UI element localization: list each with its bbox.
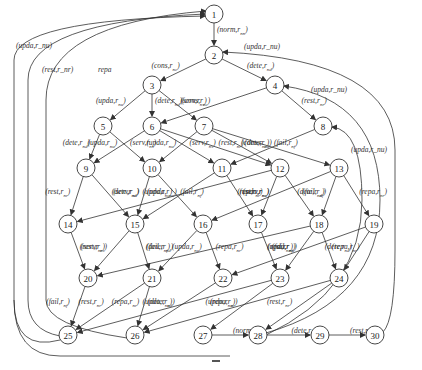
- edge-labels: (norm,rnn)(cons,rnc)(dete,rnd)(upda,rnu)…: [45, 25, 387, 337]
- edge-label-9-14: (rest,rnr): [45, 187, 71, 198]
- edge-label-7-10: (upda,rnu): [146, 138, 176, 149]
- edge-13-16: [212, 171, 330, 220]
- svg-text:11: 11: [218, 164, 227, 174]
- svg-text:16: 16: [199, 220, 209, 230]
- state-node-19: 19: [365, 215, 383, 233]
- edge-label-13-18: (dete,rnd): [297, 187, 325, 198]
- edge-label-6-11: (serv,rns): [190, 138, 217, 149]
- svg-text:15: 15: [131, 220, 141, 230]
- svg-text:10: 10: [148, 164, 158, 174]
- state-node-27: 27: [194, 326, 212, 344]
- state-node-22: 22: [214, 269, 232, 287]
- svg-text:13: 13: [335, 164, 345, 174]
- edge-label-20-25: (fail,rnf): [46, 297, 70, 308]
- edge-label-2-3: (cons,rnc): [151, 61, 180, 72]
- svg-text:18: 18: [315, 220, 325, 230]
- state-transition-diagram: (norm,rnn)(cons,rnc)(dete,rnd)(upda,rnu)…: [0, 0, 422, 370]
- edge-label-1-2: (norm,rnn): [217, 25, 248, 36]
- edge-label-4-8: (rest,rnr): [302, 96, 328, 107]
- state-node-13: 13: [330, 159, 348, 177]
- state-node-7: 7: [195, 117, 213, 135]
- state-node-8: 8: [314, 117, 332, 135]
- edge-label-16-22: (repa,rnr): [216, 242, 244, 253]
- edge-label-13-16: (upda,rnu): [239, 187, 269, 198]
- state-node-28: 28: [249, 326, 267, 344]
- svg-text:28: 28: [254, 331, 264, 341]
- edge-label-30-2-upda: (upda,r_nu): [244, 42, 281, 51]
- edge-9-14: [71, 177, 83, 215]
- edge-6-12: [161, 129, 271, 165]
- svg-text:23: 23: [276, 274, 286, 284]
- svg-text:19: 19: [370, 220, 380, 230]
- edge-label-18-20: (upda,rnu): [172, 242, 202, 253]
- svg-text:6: 6: [150, 122, 155, 132]
- edge-label-6-9: (upda,rnu): [87, 138, 117, 149]
- edge-label-5-9: (dete,rnd): [63, 138, 91, 149]
- state-node-3: 3: [143, 76, 161, 94]
- edge-label-10-15: (dete,rnd): [112, 187, 140, 198]
- edge-label-28-8-upda: (upda,r_nu): [351, 145, 388, 154]
- edge-label-21-25: (rest,rnr): [78, 297, 104, 308]
- svg-text:21: 21: [148, 274, 157, 284]
- state-node-5: 5: [94, 117, 112, 135]
- edges: [71, 23, 369, 335]
- svg-text:5: 5: [101, 122, 106, 132]
- state-node-24: 24: [330, 269, 348, 287]
- svg-text:24: 24: [335, 274, 345, 284]
- edge-26-1-repa: [46, 11, 206, 338]
- svg-text:8: 8: [321, 122, 326, 132]
- nodes: 1234567891011121314151617181920212223242…: [59, 5, 384, 344]
- svg-text:14: 14: [64, 220, 74, 230]
- edge-label-13-19: (repa,rnr): [359, 187, 387, 198]
- state-node-25: 25: [59, 326, 77, 344]
- state-node-11: 11: [213, 159, 231, 177]
- edge-label-15-20: (rest,rnr): [80, 242, 106, 253]
- svg-text:17: 17: [254, 220, 264, 230]
- edge-18-20: [98, 226, 310, 276]
- svg-text:26: 26: [131, 331, 141, 341]
- state-node-16: 16: [194, 215, 212, 233]
- state-node-23: 23: [271, 269, 289, 287]
- svg-text:12: 12: [276, 164, 285, 174]
- edge-label-7-13: (fail,rnf): [274, 138, 298, 149]
- edge-24-26: [145, 280, 331, 332]
- svg-text:4: 4: [273, 81, 278, 91]
- state-node-6: 6: [143, 117, 161, 135]
- state-node-26: 26: [126, 326, 144, 344]
- edge-label-23-25: (upda,rnu): [142, 297, 172, 308]
- svg-text:7: 7: [202, 122, 207, 132]
- svg-text:2: 2: [212, 51, 217, 61]
- edge-label-3-5: (upda,rnu): [96, 96, 126, 107]
- state-node-1: 1: [205, 5, 223, 23]
- svg-text:9: 9: [84, 164, 89, 174]
- edge-label-24-28: (rest,rnr): [267, 297, 293, 308]
- svg-text:29: 29: [316, 331, 326, 341]
- edge-label-28-4-upda: (upda,r_nu): [311, 85, 348, 94]
- svg-text:27: 27: [199, 331, 209, 341]
- state-node-30: 30: [366, 326, 384, 344]
- edge-label-26-1-repa: repa: [98, 65, 112, 74]
- state-node-4: 4: [266, 76, 284, 94]
- state-node-14: 14: [59, 215, 77, 233]
- svg-text:20: 20: [84, 274, 94, 284]
- state-node-12: 12: [271, 159, 289, 177]
- svg-text:30: 30: [371, 331, 381, 341]
- svg-text:1: 1: [212, 10, 217, 20]
- edge-label-8-11: (cons,rnc): [241, 138, 270, 149]
- edge-label-2-4: (dete,rnd): [247, 61, 275, 72]
- state-node-20: 20: [79, 269, 97, 287]
- edge-label-10-16: (fail,rnf): [180, 187, 204, 198]
- edge-12-14: [78, 170, 272, 221]
- state-node-2: 2: [205, 46, 223, 64]
- state-node-17: 17: [249, 215, 267, 233]
- edge-label-3-6: (dete,rnd): [155, 96, 183, 107]
- edge-label-24-26: (upda,rnu): [205, 297, 235, 308]
- state-node-29: 29: [311, 326, 329, 344]
- edge-label-21-26: (repa,rnr): [112, 297, 140, 308]
- state-node-21: 21: [143, 269, 161, 287]
- state-node-15: 15: [126, 215, 144, 233]
- edge-label-25-1-rest: (rest,r_nr): [42, 65, 74, 74]
- state-node-18: 18: [310, 215, 328, 233]
- svg-text:25: 25: [64, 331, 74, 341]
- footer-mark: [212, 360, 220, 362]
